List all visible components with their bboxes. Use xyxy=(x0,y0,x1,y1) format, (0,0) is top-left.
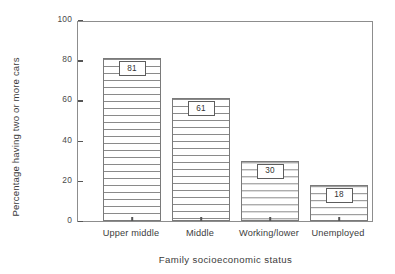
bar-value-label: 18 xyxy=(326,188,353,203)
y-axis-tick-label: 100 xyxy=(57,14,72,24)
y-axis-title: Percentage having two or more cars xyxy=(0,0,30,274)
y-axis-tick xyxy=(78,60,83,61)
bar-chart-figure: Percentage having two or more cars Famil… xyxy=(0,0,395,274)
x-axis-tick xyxy=(338,217,340,221)
x-axis-title: Family socioeconomic status xyxy=(77,254,374,265)
bar xyxy=(172,98,230,221)
y-axis-tick xyxy=(78,100,83,101)
plot-area: 02040608010081613018 xyxy=(77,21,373,222)
x-axis-category-label: Middle xyxy=(186,228,214,238)
y-axis-tick xyxy=(78,141,83,142)
x-axis-category-label: Upper middle xyxy=(103,228,159,238)
x-axis-category-label: Working/lower xyxy=(239,228,299,238)
y-axis-tick xyxy=(78,221,83,222)
y-axis-tick-label: 0 xyxy=(67,215,72,225)
y-axis-tick-label: 60 xyxy=(62,94,72,104)
bar xyxy=(103,58,161,221)
y-axis-tick-label: 40 xyxy=(62,135,72,145)
x-axis-tick xyxy=(269,217,271,221)
bar-value-label: 81 xyxy=(119,61,146,76)
y-axis-tick-label: 80 xyxy=(62,54,72,64)
x-axis-tick xyxy=(131,217,133,221)
x-axis-category-label: Unemployed xyxy=(311,228,364,238)
bar-value-label: 61 xyxy=(188,101,215,116)
x-axis-tick xyxy=(200,217,202,221)
y-axis-tick xyxy=(78,20,83,21)
y-axis-tick xyxy=(78,181,83,182)
bar-value-label: 30 xyxy=(257,164,284,179)
y-axis-tick-label: 20 xyxy=(62,175,72,185)
